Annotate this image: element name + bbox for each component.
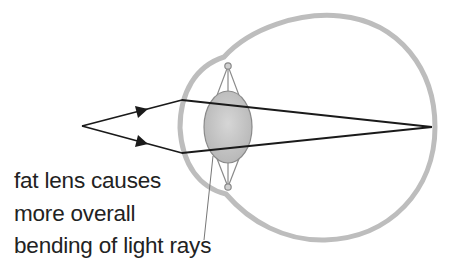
- arrowheads: [135, 106, 148, 147]
- caption-line-2: more overall: [14, 203, 135, 226]
- arrowhead-upper: [135, 106, 148, 118]
- caption-line-1: fat lens causes: [14, 170, 161, 193]
- lower-ray: [82, 126, 432, 153]
- fat-lens: [204, 91, 252, 163]
- caption-line-3: bending of light rays: [14, 235, 211, 258]
- light-rays: [82, 100, 432, 153]
- pointer-line: [204, 156, 213, 240]
- arrowhead-lower: [135, 135, 148, 147]
- upper-ray: [82, 100, 432, 127]
